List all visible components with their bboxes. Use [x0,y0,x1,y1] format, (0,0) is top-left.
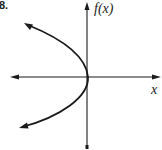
x-axis [10,75,161,80]
x-axis-label: x [151,83,157,97]
y-axis-bottom-end-icon [86,145,89,149]
problem-number: 8. [0,0,8,11]
x-axis-arrow-left-icon [10,75,19,80]
graph-figure: 8. f(x) x [0,0,162,150]
graph-canvas [0,0,162,150]
parabola-curve [19,23,88,129]
y-axis-arrow-up-icon [85,2,90,10]
x-axis-arrow-right-icon [152,75,161,80]
curve-arrow-upper-icon [24,23,33,30]
y-axis-label: f(x) [94,2,113,16]
curve-arrow-lower-icon [19,123,29,129]
